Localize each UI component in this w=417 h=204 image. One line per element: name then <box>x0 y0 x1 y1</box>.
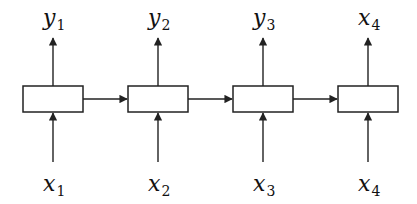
rnn-cell-1 <box>23 86 83 112</box>
output-label-3: y3 <box>252 5 275 33</box>
input-label-3: x3 <box>253 171 275 199</box>
output-label-2-subscript: 2 <box>161 17 170 33</box>
output-label-4-var: x <box>358 5 371 30</box>
output-label-4-subscript: 4 <box>371 17 380 33</box>
output-label-1: y1 <box>42 5 65 33</box>
output-label-3-var: y <box>252 5 266 30</box>
rnn-cell-3 <box>233 86 293 112</box>
input-label-2-var: x <box>148 171 161 196</box>
output-label-3-subscript: 3 <box>266 17 275 33</box>
input-label-4-var: x <box>358 171 371 196</box>
input-label-1-subscript: 1 <box>56 183 65 199</box>
rnn-cell-4 <box>338 86 398 112</box>
diagram-canvas: y1x1y2x2y3x3x4x4 <box>0 0 417 204</box>
rnn-cell-2 <box>128 86 188 112</box>
input-label-1-var: x <box>43 171 56 196</box>
output-label-2: y2 <box>147 5 170 33</box>
edges-layer <box>53 38 368 162</box>
output-label-2-var: y <box>147 5 161 30</box>
output-label-1-subscript: 1 <box>56 17 65 33</box>
input-label-3-subscript: 3 <box>266 183 275 199</box>
input-label-4-subscript: 4 <box>371 183 380 199</box>
rnn-diagram: y1x1y2x2y3x3x4x4 <box>0 0 417 204</box>
input-label-3-var: x <box>253 171 266 196</box>
input-label-1: x1 <box>43 171 65 199</box>
input-label-2: x2 <box>148 171 170 199</box>
input-label-4: x4 <box>358 171 380 199</box>
output-label-1-var: y <box>42 5 56 30</box>
output-label-4: x4 <box>358 5 380 33</box>
input-label-2-subscript: 2 <box>161 183 170 199</box>
labels-layer: y1x1y2x2y3x3x4x4 <box>42 5 380 199</box>
